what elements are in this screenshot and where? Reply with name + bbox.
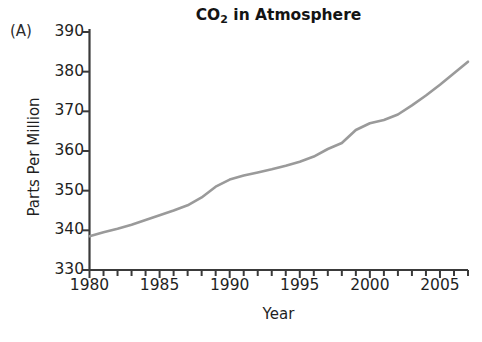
x-tick-label: 1980 xyxy=(55,276,125,294)
x-axis-tick-labels: 198019851990199520002005 xyxy=(0,0,482,342)
x-tick-label: 1995 xyxy=(265,276,335,294)
x-tick-label: 2000 xyxy=(335,276,405,294)
chart-figure: (A) CO2 in Atmosphere Parts Per Million … xyxy=(0,0,482,342)
x-tick-label: 1990 xyxy=(195,276,265,294)
x-tick-label: 1985 xyxy=(125,276,195,294)
x-tick-label: 2005 xyxy=(405,276,475,294)
